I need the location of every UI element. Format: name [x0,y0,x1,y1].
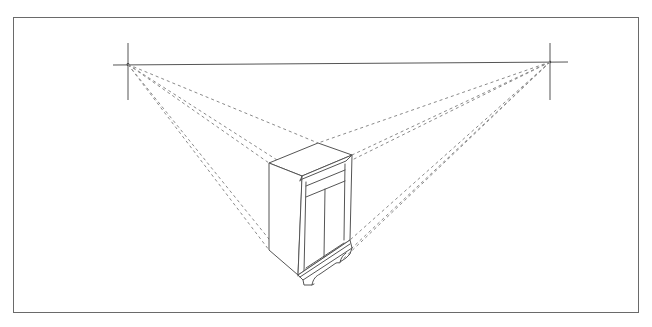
construction-line [128,65,269,164]
construction-line [128,65,269,251]
cabinet [269,143,352,285]
construction-line [340,62,550,262]
construction-line [350,62,550,240]
construction-line [352,62,550,160]
construction-line [352,62,550,155]
construction-line [352,62,550,248]
perspective-drawing-canvas [0,0,652,327]
right-construction-lines [318,62,550,262]
construction-line [128,65,302,177]
cabinet-left-side-face [269,163,302,275]
horizon-line [113,62,568,65]
construction-line [318,62,550,143]
